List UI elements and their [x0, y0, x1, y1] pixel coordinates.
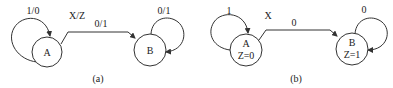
diagram-a: A B 1/0 X/Z 0/1 0/1 (a): [11, 5, 183, 85]
transition-label-a-b: 0/1: [95, 18, 108, 29]
transition-label-a-a: 1: [227, 5, 232, 16]
caption-a: (a): [92, 73, 103, 85]
transition-label-a-b: 0: [292, 17, 297, 28]
transition-a-to-b: [259, 30, 337, 40]
state-diagrams-canvas: A B 1/0 X/Z 0/1 0/1 (a) A Z=0 B Z=1 1 X …: [0, 0, 393, 88]
transition-label-b-b: 0/1: [158, 5, 171, 16]
caption-b: (b): [290, 73, 302, 85]
io-legend-label: X: [264, 10, 272, 21]
state-b-label: B: [147, 45, 154, 56]
state-b-output: Z=1: [344, 49, 361, 60]
transition-a-to-b: [61, 32, 135, 44]
state-a-label: A: [242, 38, 250, 49]
state-b-label: B: [349, 37, 356, 48]
transition-label-b-b: 0: [362, 4, 367, 15]
state-a-label: A: [43, 47, 51, 58]
io-legend-label: X/Z: [69, 10, 85, 21]
state-a-output: Z=0: [238, 50, 255, 61]
transition-label-a-a: 1/0: [27, 5, 40, 16]
diagram-b: A Z=0 B Z=1 1 X 0 0 (b): [211, 4, 387, 85]
